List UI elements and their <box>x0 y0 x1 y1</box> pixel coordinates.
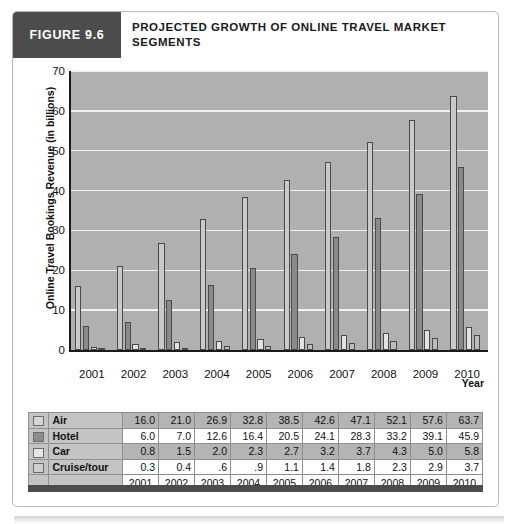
legend-swatch-cell <box>29 413 49 429</box>
table-row-label: Cruise/tour <box>49 459 123 475</box>
bar-group <box>154 71 196 350</box>
table-cell: 2.9 <box>410 459 446 475</box>
x-axis-tick-label: 2002 <box>121 368 147 380</box>
bar-car-2009 <box>424 330 430 350</box>
table-cell: 16.4 <box>231 428 267 444</box>
table-cell: 28.3 <box>338 428 374 444</box>
bar-group <box>71 71 113 350</box>
plot-area: 0102030405060702001200220032004200520062… <box>69 71 488 352</box>
table-cell: 39.1 <box>410 428 446 444</box>
figure-number-badge: FIGURE 9.6 <box>13 12 121 58</box>
table-cell: 4.3 <box>374 444 410 460</box>
bar-hotel-2010 <box>458 167 464 350</box>
x-axis-tick-label: 2009 <box>413 368 439 380</box>
bar-air-2006 <box>284 180 290 350</box>
bar-group <box>446 71 488 350</box>
bar-group <box>196 71 238 350</box>
figure-container: FIGURE 9.6 PROJECTED GROWTH OF ONLINE TR… <box>12 11 499 507</box>
bar-car-2005 <box>257 339 263 350</box>
table-cell: 16.0 <box>123 413 159 429</box>
legend-swatch-air-icon <box>33 416 44 426</box>
bar-air-2001 <box>75 286 81 350</box>
table-row: Air16.021.026.932.838.542.647.152.157.66… <box>29 413 483 429</box>
figure-title: PROJECTED GROWTH OF ONLINE TRAVEL MARKET… <box>132 20 484 50</box>
y-axis-title: Online Travel Bookings Revenue (in billi… <box>44 63 56 333</box>
table-cell: 1.5 <box>159 444 195 460</box>
table-cell: 3.7 <box>338 444 374 460</box>
bar-hotel-2001 <box>83 326 89 350</box>
table-cell: 3.2 <box>302 444 338 460</box>
table-row: Car0.81.52.02.32.73.23.74.35.05.8 <box>29 444 483 460</box>
bar-air-2002 <box>117 266 123 350</box>
table-cell: 0.4 <box>159 459 195 475</box>
x-axis-tick-label: 2001 <box>79 368 105 380</box>
legend-swatch-cruise-icon <box>33 463 44 473</box>
table-cell: 5.8 <box>446 444 482 460</box>
bar-car-2010 <box>466 327 472 350</box>
bar-hotel-2007 <box>333 237 339 350</box>
table-cell: 42.6 <box>302 413 338 429</box>
bar-car-2001 <box>91 347 97 350</box>
table-cell: 12.6 <box>195 428 231 444</box>
figure-header: FIGURE 9.6 PROJECTED GROWTH OF ONLINE TR… <box>13 12 498 58</box>
bar-hotel-2005 <box>250 268 256 350</box>
legend-swatch-cell <box>29 459 49 475</box>
bar-car-2003 <box>174 342 180 350</box>
table-row-label: Hotel <box>49 428 123 444</box>
x-axis-tick-label: 2004 <box>204 368 230 380</box>
table-cell: 21.0 <box>159 413 195 429</box>
bar-air-2007 <box>325 162 331 350</box>
x-axis-tick-label: 2008 <box>371 368 397 380</box>
bar-air-2003 <box>158 243 164 350</box>
table-row-label: Car <box>49 444 123 460</box>
bar-hotel-2008 <box>375 218 381 350</box>
bar-group <box>321 71 363 350</box>
legend-swatch-hotel-icon <box>33 432 44 442</box>
bar-cruise-tour-2004 <box>224 346 230 350</box>
legend-swatch-car-icon <box>33 448 44 458</box>
legend-swatch-cell <box>29 444 49 460</box>
table-row-label: Air <box>49 413 123 429</box>
y-axis-tick-label: 70 <box>52 65 65 77</box>
table-cell: 1.1 <box>266 459 302 475</box>
table-cell: 7.0 <box>159 428 195 444</box>
bar-cruise-tour-2006 <box>307 344 313 350</box>
bar-air-2005 <box>242 197 248 350</box>
legend-swatch-cell <box>29 428 49 444</box>
table-cell: 45.9 <box>446 428 482 444</box>
bar-car-2004 <box>216 341 222 350</box>
bar-cruise-tour-2003 <box>182 348 188 350</box>
bar-car-2007 <box>341 335 347 350</box>
bar-car-2008 <box>383 333 389 350</box>
table-cell: 2.0 <box>195 444 231 460</box>
bar-hotel-2009 <box>416 194 422 350</box>
table-cell: 20.5 <box>266 428 302 444</box>
table-cell: .9 <box>231 459 267 475</box>
bar-cruise-tour-2001 <box>98 348 104 350</box>
table-cell: 0.3 <box>123 459 159 475</box>
bar-cruise-tour-2007 <box>349 343 355 350</box>
y-axis-tick-label: 10 <box>52 304 65 316</box>
data-table: Air16.021.026.932.838.542.647.152.157.66… <box>28 412 483 491</box>
bar-air-2009 <box>409 120 415 350</box>
bar-hotel-2004 <box>208 285 214 350</box>
table-row: Hotel6.07.012.616.420.524.128.333.239.14… <box>29 428 483 444</box>
table-cell: 2.7 <box>266 444 302 460</box>
y-axis-tick-label: 20 <box>52 264 65 276</box>
x-axis-tick-label: 2005 <box>246 368 272 380</box>
bar-chart: Online Travel Bookings Revenue (in billi… <box>13 58 498 398</box>
bar-group <box>238 71 280 350</box>
table-cell: 52.1 <box>374 413 410 429</box>
table-cell: 5.0 <box>410 444 446 460</box>
bar-cruise-tour-2005 <box>265 346 271 350</box>
table-cell: 24.1 <box>302 428 338 444</box>
table-cell: 2.3 <box>231 444 267 460</box>
x-axis-tick-label: 2007 <box>329 368 355 380</box>
bar-cruise-tour-2002 <box>140 348 146 350</box>
bar-hotel-2002 <box>125 322 131 350</box>
y-axis-tick-label: 0 <box>59 344 65 356</box>
bar-group <box>363 71 405 350</box>
bar-air-2010 <box>450 96 456 350</box>
bar-cruise-tour-2008 <box>390 341 396 350</box>
bar-hotel-2006 <box>291 254 297 350</box>
